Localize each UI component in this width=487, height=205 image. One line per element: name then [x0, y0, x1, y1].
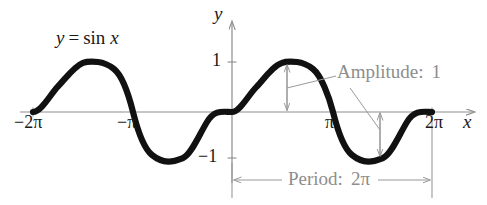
x-axis-label: x [463, 112, 471, 131]
period-value: 2π [343, 168, 370, 189]
curve-equation-label: y=sinx [56, 28, 119, 47]
period-annotation: Period:2π [288, 169, 370, 188]
x-tick-label--pi: −π [117, 113, 136, 131]
y-tick-label-1: 1 [212, 51, 221, 69]
tick-value: 1 [208, 146, 217, 166]
sine-curve-figure: y=sinx y x −2π −π π 2π 1 −1 Amplitude:1 … [0, 0, 487, 205]
equation-sin: sin [83, 27, 105, 48]
minus-sign: − [117, 112, 127, 132]
tick-value: 2π [24, 112, 42, 132]
x-tick-label-2pi: 2π [425, 113, 443, 131]
x-axis [20, 108, 474, 117]
amplitude-leader-line-right [350, 88, 380, 130]
period-text: Period: [288, 168, 343, 189]
x-tick-label--2pi: −2π [14, 113, 42, 131]
minus-sign: − [198, 146, 208, 166]
amplitude-leader-line-left [287, 76, 336, 88]
equation-equals: = [64, 27, 83, 48]
amplitude-arrow-right [350, 88, 380, 156]
y-axis-label: y [214, 4, 222, 23]
minus-sign: − [14, 112, 24, 132]
equation-x: x [105, 27, 118, 48]
tick-value: π [127, 112, 136, 132]
y-tick-label--1: −1 [198, 147, 217, 165]
amplitude-text: Amplitude: [337, 61, 424, 82]
amplitude-value: 1 [424, 61, 442, 82]
amplitude-annotation: Amplitude:1 [337, 62, 441, 81]
x-tick-label-pi: π [325, 113, 334, 131]
y-axis [228, 22, 237, 183]
